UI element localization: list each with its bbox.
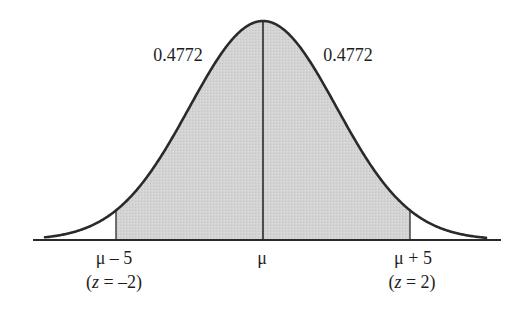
mean-label: μ bbox=[257, 248, 267, 268]
right-z-var: z bbox=[394, 272, 401, 292]
right-z-label: (z = 2) bbox=[388, 272, 435, 292]
right-z-rest: = 2) bbox=[401, 272, 435, 292]
left-area-label: 0.4772 bbox=[153, 45, 203, 65]
right-value-label: μ + 5 bbox=[394, 248, 432, 268]
left-z-label: (z = –2) bbox=[86, 272, 142, 292]
left-z-rest: = –2) bbox=[99, 272, 142, 292]
right-area-label: 0.4772 bbox=[323, 45, 373, 65]
left-value-label: μ – 5 bbox=[96, 248, 133, 268]
left-z-var: z bbox=[92, 272, 99, 292]
